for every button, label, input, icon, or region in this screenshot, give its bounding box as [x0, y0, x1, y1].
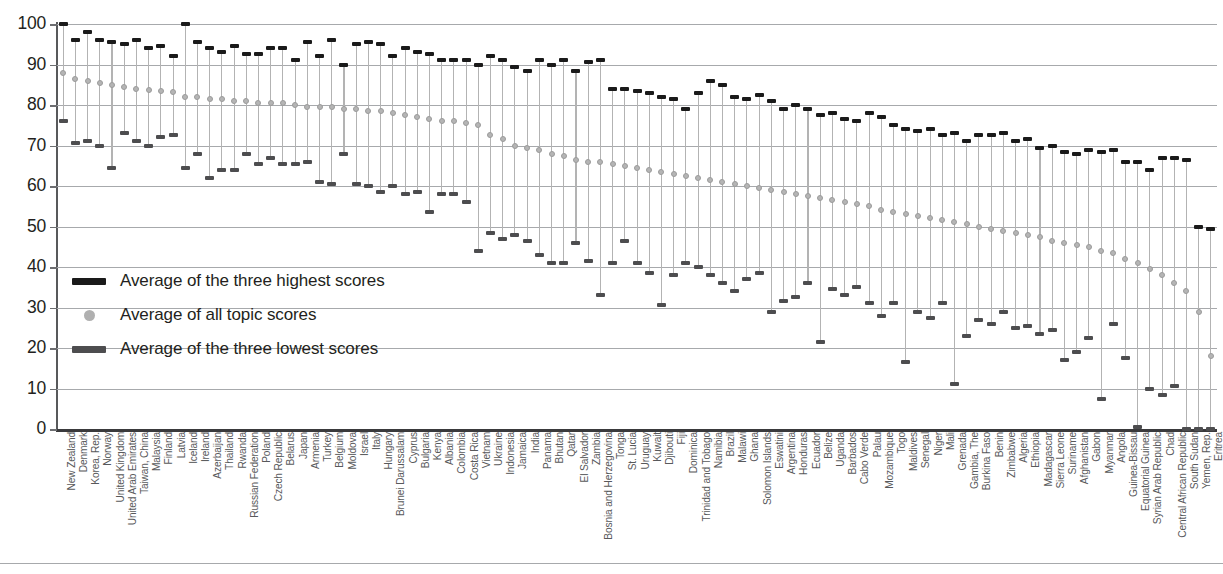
y-tick-mark [50, 186, 57, 188]
low-score-marker [266, 156, 275, 160]
high-score-marker [413, 50, 422, 54]
low-score-bar-icon [72, 346, 106, 353]
range-stem [209, 48, 210, 178]
data-column [255, 24, 262, 429]
data-column [414, 24, 421, 429]
low-score-marker [1084, 336, 1093, 340]
high-score-marker [327, 38, 336, 42]
range-stem [111, 42, 112, 168]
mean-score-marker [536, 147, 542, 153]
chart-legend: Average of the three highest scores Aver… [58, 264, 388, 366]
mean-score-marker [121, 84, 127, 90]
low-score-marker [327, 182, 336, 186]
x-tick-label: St. Lucia [628, 432, 638, 470]
range-stem [930, 129, 931, 317]
mean-score-marker [866, 203, 872, 209]
data-column [572, 24, 579, 429]
high-score-bar-icon [72, 278, 106, 285]
high-score-marker [1084, 148, 1093, 152]
legend-label-low: Average of the three lowest scores [120, 339, 378, 359]
data-column [292, 24, 299, 429]
high-score-marker [1158, 156, 1167, 160]
x-tick-label: United Arab Emirates [128, 432, 138, 525]
legend-swatch-mean [58, 310, 120, 321]
range-stem [429, 54, 430, 212]
mean-score-marker [549, 151, 555, 157]
data-column [108, 24, 115, 429]
data-column [1049, 24, 1056, 429]
data-column [389, 24, 396, 429]
mean-score-marker [585, 159, 591, 165]
low-score-marker [620, 239, 629, 243]
range-stem [881, 117, 882, 315]
low-score-marker [1145, 387, 1154, 391]
x-tick-label: Latvia [177, 432, 187, 458]
high-score-marker [767, 99, 776, 103]
low-score-marker [498, 237, 507, 241]
x-tick-label: Brunei Darussalam [396, 432, 406, 516]
mean-score-marker [634, 165, 640, 171]
data-column [60, 24, 67, 429]
low-score-marker [840, 293, 849, 297]
mean-score-marker [231, 98, 237, 104]
data-column [634, 24, 641, 429]
x-tick-label: Ireland [201, 432, 211, 462]
data-column [182, 24, 189, 429]
mean-score-marker [1086, 244, 1092, 250]
x-tick-label: Colombia [457, 432, 467, 474]
mean-score-marker [1000, 228, 1006, 234]
range-stem [246, 54, 247, 153]
high-score-marker [388, 54, 397, 58]
legend-swatch-high [58, 278, 120, 285]
mean-score-marker [255, 100, 261, 106]
y-tick-mark [50, 105, 57, 107]
x-tick-label: Moldova [348, 432, 358, 469]
y-tick-mark [50, 429, 57, 431]
y-tick-label: 100 [0, 15, 46, 33]
high-score-marker [71, 38, 80, 42]
data-column [218, 24, 225, 429]
legend-swatch-low [58, 346, 120, 353]
range-stem [685, 109, 686, 263]
mean-score-marker [622, 163, 628, 169]
x-tick-label: Bosnia and Herzegovina [604, 432, 614, 540]
mean-score-marker [158, 88, 164, 94]
low-score-marker [193, 152, 202, 156]
data-column [951, 24, 958, 429]
mean-score-marker [1013, 230, 1019, 236]
x-tick-label: Chad [1166, 432, 1176, 456]
high-score-marker [1182, 158, 1191, 162]
x-tick-label: Italy [372, 432, 382, 450]
x-tick-label: Dominica [689, 432, 699, 473]
range-stem [1064, 152, 1065, 361]
high-score-marker [1145, 168, 1154, 172]
mean-score-marker [1037, 234, 1043, 240]
data-column [84, 24, 91, 429]
low-score-marker [83, 139, 92, 143]
low-score-marker [803, 281, 812, 285]
low-score-marker [425, 210, 434, 214]
high-score-marker [938, 133, 947, 137]
low-score-marker [1097, 397, 1106, 401]
data-column [1159, 24, 1166, 429]
high-score-marker [657, 95, 666, 99]
range-stem [478, 65, 479, 251]
low-score-marker [571, 241, 580, 245]
high-score-marker [645, 91, 654, 95]
mean-score-marker [439, 118, 445, 124]
range-stem [221, 52, 222, 169]
mean-score-marker [182, 94, 188, 100]
low-score-marker [413, 190, 422, 194]
x-tick-label: Barbados [848, 432, 858, 474]
range-stem [87, 32, 88, 141]
range-stem [1149, 170, 1150, 389]
high-score-marker [828, 111, 837, 115]
x-tick-label: Iceland [189, 432, 199, 464]
low-score-marker [1158, 393, 1167, 397]
range-stem [1186, 160, 1187, 429]
x-tick-label: Eritrea [1214, 432, 1223, 461]
range-stem [405, 48, 406, 194]
low-score-marker [1170, 384, 1179, 388]
low-score-marker [230, 168, 239, 172]
mean-score-marker [109, 82, 115, 88]
